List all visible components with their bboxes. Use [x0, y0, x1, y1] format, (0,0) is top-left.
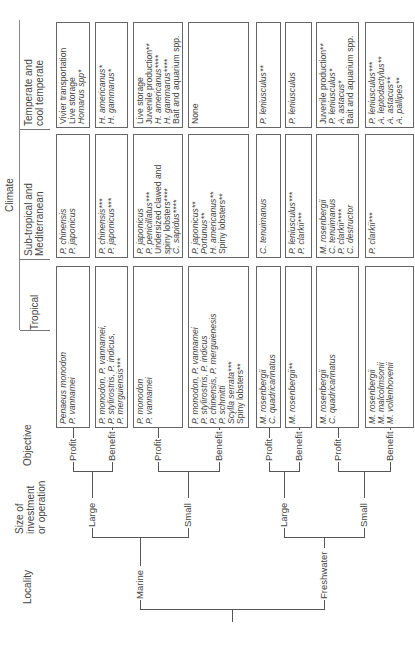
species-entry: Spiny lobsters**: [236, 270, 245, 424]
header-objective: Objective: [22, 424, 33, 466]
size-bracket-tick: [390, 462, 391, 472]
species-entry: C. destructor: [346, 138, 355, 254]
species-cell-subtropical: M. rosenbergiiC. tenuimanusP. clarkii***…: [316, 134, 359, 258]
species-cell-temperate: Live storageJuvenile production**H. amer…: [133, 22, 183, 128]
species-cell-tropical: M. rosenbergiiC. quadricarinatus: [256, 266, 281, 428]
species-cell-tropical: P. monodonP. vannamei: [133, 266, 183, 428]
objective-label: Profit: [153, 438, 163, 462]
species-cell-subtropical: P. clarkii***: [365, 134, 414, 258]
size-label: Large: [279, 502, 289, 528]
species-cell-temperate: P. leniusculus**: [256, 22, 281, 128]
species-cell-subtropical: P. japonicus**Portunus**H. americanus**S…: [188, 134, 249, 258]
size-bracket-tick: [299, 462, 300, 472]
header-temperate-line: cool temperate: [34, 59, 45, 126]
species-entry: C. quadricarinatus: [328, 270, 337, 424]
species-cell-temperate: Vivier transportationLive storageHomarus…: [56, 22, 90, 128]
header-separator: [20, 330, 50, 331]
header-climate: Climate: [4, 178, 15, 212]
species-entry: Bait and aquarium spp.: [346, 26, 355, 124]
species-cell-tropical: P. monodon, P. vannamei,P. stylirostris,…: [95, 266, 128, 428]
locality-bracket-tick: [364, 528, 365, 538]
header-size-line: investment: [25, 481, 36, 534]
climate-underline: [19, 20, 20, 330]
locality-connector: [324, 538, 325, 548]
species-entry: A. pallipes**: [395, 26, 404, 124]
size-bracket-tick: [158, 462, 159, 472]
species-cell-tropical: P. monodon, P. vannameiP. stylirostris, …: [188, 266, 249, 428]
objective-to-cell-line: [338, 428, 339, 438]
header-size: Size of investment or operation: [14, 481, 47, 534]
species-cell-subtropical: P. chinensis***P. japonicus***: [95, 134, 128, 258]
header-temperate: Temperate and cool temperate: [23, 59, 45, 126]
header-subtropical-line: Sub-tropical and: [23, 183, 34, 256]
species-entry: Homarus spp*: [77, 26, 86, 124]
header-subtropical: Sub-tropical and Mediterranean: [23, 183, 45, 256]
species-entry: P. leniusculus: [288, 26, 297, 124]
aquaculture-decision-table: Locality Size of investment or operation…: [0, 0, 415, 658]
species-cell-subtropical: C. tenuimanus: [256, 134, 281, 258]
locality-bracket-tick: [188, 528, 189, 538]
objective-label: Profit: [333, 438, 343, 462]
header-tropical: Tropical: [29, 295, 40, 330]
species-entry: Spiny lobsters**: [218, 138, 227, 254]
species-entry: C. sapidus****: [172, 138, 181, 254]
header-locality: Locality: [22, 570, 33, 604]
size-connector: [364, 472, 365, 498]
size-bracket-tick: [269, 462, 270, 472]
species-cell-temperate: P. leniusculus***A. leptodactylus**A. as…: [365, 22, 414, 128]
locality-label: Marine: [135, 569, 145, 600]
size-label: Small: [183, 502, 193, 528]
objective-to-cell-line: [269, 428, 270, 438]
size-bracket-tick: [219, 462, 220, 472]
species-cell-temperate: None: [188, 22, 249, 128]
species-cell-subtropical: P. leniusculus***P. clarkii***: [285, 134, 312, 258]
objective-label: Profit: [264, 438, 274, 462]
objective-to-cell-line: [158, 428, 159, 438]
species-entry: H. gammarus*: [107, 26, 116, 124]
species-entry: P. japonicus***: [107, 138, 116, 254]
root-bracket-tick: [140, 600, 141, 610]
root-stem: [232, 610, 233, 622]
species-cell-tropical: Penaeus monodonP. vannamei: [56, 266, 90, 428]
size-bracket-tick: [112, 462, 113, 472]
size-connector: [284, 472, 285, 498]
species-entry: C. quadricarinatus: [268, 270, 277, 424]
objective-label: Benefit: [214, 430, 224, 462]
header-size-line: Size of: [14, 481, 25, 534]
locality-connector: [140, 538, 141, 566]
species-entry: P. japonicus: [68, 138, 77, 254]
species-entry: M. vollenhovenii: [386, 270, 395, 424]
objective-to-cell-line: [112, 428, 113, 430]
objective-to-cell-line: [299, 428, 300, 430]
objective-to-cell-line: [219, 428, 220, 430]
locality-bracket-tick: [284, 528, 285, 538]
species-cell-subtropical: P. japonicusP. penicillatus***Undersized…: [133, 134, 183, 258]
header-size-line: or operation: [36, 481, 47, 534]
size-label: Large: [87, 502, 97, 528]
objective-label: Benefit: [294, 430, 304, 462]
size-bracket-tick: [338, 462, 339, 472]
species-cell-temperate: Juvenile production**P. leniusculus*A. a…: [316, 22, 359, 128]
species-entry: P. vannamei: [68, 270, 77, 424]
species-entry: P. clarkii***: [297, 138, 306, 254]
species-cell-subtropical: P. chinensisP. japonicus: [56, 134, 90, 258]
objective-to-cell-line: [390, 428, 391, 430]
locality-bracket-tick: [92, 528, 93, 538]
species-cell-tropical: M. rosenbergiiM. malcolmsoniiM. vollenho…: [365, 266, 414, 428]
species-cell-temperate: H. americanus*H. gammarus*: [95, 22, 128, 128]
header-subtropical-line: Mediterranean: [34, 183, 45, 256]
size-bracket-tick: [73, 462, 74, 472]
size-label: Small: [359, 502, 369, 528]
species-entry: P. vannamei: [145, 270, 154, 424]
species-entry: C. tenuimanus: [259, 138, 268, 254]
species-cell-tropical: M. rosenbergii**: [285, 266, 312, 428]
locality-label: Freshwater: [319, 550, 329, 600]
species-cell-temperate: P. leniusculus: [285, 22, 312, 128]
species-entry: Bait and aquarium spp.: [172, 26, 181, 124]
species-entry: P. leniusculus**: [259, 26, 268, 124]
header-separator: [20, 129, 50, 130]
species-entry: M. rosenbergii**: [288, 270, 297, 424]
species-cell-tropical: M. rosenbergiiC. quadricarinatus: [316, 266, 359, 428]
objective-label: Benefit: [385, 430, 395, 462]
species-entry: P. clarkii***: [368, 138, 377, 254]
